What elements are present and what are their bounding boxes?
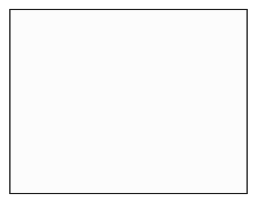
mesh-frame-border xyxy=(10,10,247,194)
figure-root xyxy=(0,0,258,202)
airfoil-mesh-figure xyxy=(0,0,258,202)
